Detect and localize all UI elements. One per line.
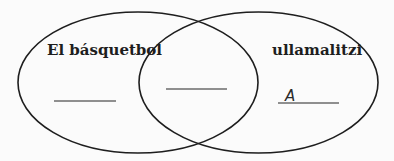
left-set-ellipse: [18, 12, 258, 153]
venn-diagram: El básquetbol ullamalitzi A: [0, 0, 394, 161]
right-set-label: ullamalitzi: [272, 41, 362, 59]
left-set-label: El básquetbol: [47, 41, 162, 59]
right-answer-text: A: [284, 87, 295, 105]
